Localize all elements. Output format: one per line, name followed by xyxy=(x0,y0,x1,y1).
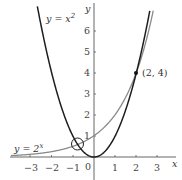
x-tick-label: 2 xyxy=(133,162,139,173)
parabola-label-base: y = x xyxy=(45,13,71,24)
y-tick-label: 6 xyxy=(84,25,90,36)
y-tick-label: 2 xyxy=(84,109,90,120)
x-tick-label: −3 xyxy=(24,162,38,173)
y-axis-label: y xyxy=(84,3,91,14)
exponential-label-base: y = 2 xyxy=(13,143,39,154)
parabola-label-sup: 2 xyxy=(70,12,76,20)
y-tick-label: 5 xyxy=(84,46,90,57)
point-label: (2, 4) xyxy=(142,67,168,78)
x-tick-label: 3 xyxy=(154,162,160,173)
parabola-label: y = x2 xyxy=(45,12,76,24)
y-tick-label: 3 xyxy=(84,88,90,99)
x-axis-label: x xyxy=(172,158,178,169)
exponential-label: y = 2x xyxy=(13,142,43,154)
x-tick-label: −1 xyxy=(66,162,80,173)
exponential-label-sup: x xyxy=(39,142,43,150)
point-marker xyxy=(134,71,138,75)
y-tick-label: 4 xyxy=(84,67,90,78)
graph-chart: −3 −2 −1 1 2 3 0 1 2 3 4 5 6 x y (2, 4) … xyxy=(0,0,182,180)
origin-label: 0 xyxy=(85,161,91,172)
x-tick-label: −2 xyxy=(45,162,59,173)
exponential-curve xyxy=(11,11,153,156)
x-tick-label: 1 xyxy=(112,162,118,173)
